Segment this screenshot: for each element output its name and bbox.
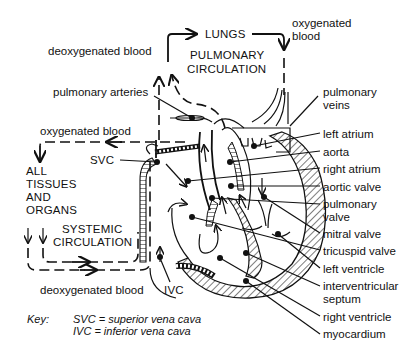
- deoxygenated-blood-top-label: deoxygenated blood: [48, 45, 152, 57]
- label-pulmonary-valve-2: valve: [323, 211, 350, 223]
- top-labels: LUNGS PULMONARY CIRCULATION deoxygenated…: [48, 17, 351, 98]
- label-myocardium: myocardium: [323, 328, 386, 340]
- tissues-label-4: ORGANS: [26, 204, 77, 216]
- heart-circulation-diagram: LUNGS PULMONARY CIRCULATION deoxygenated…: [0, 0, 419, 361]
- tissues-label-1: ALL: [26, 165, 47, 177]
- pulmonary-circulation-label-1: PULMONARY: [190, 49, 265, 61]
- label-aortic-valve: aortic valve: [323, 181, 381, 193]
- label-left-atrium: left atrium: [323, 128, 374, 140]
- key-svc-definition: SVC = superior vena cava: [73, 313, 201, 325]
- systemic-circulation-label-2: CIRCULATION: [53, 236, 132, 248]
- ivc-label: IVC: [164, 284, 184, 296]
- label-aorta: aorta: [323, 146, 350, 158]
- label-pulmonary-veins-1: pulmonary: [323, 86, 377, 98]
- oxygenated-blood-top-label-1: oxygenated: [292, 17, 351, 29]
- right-labels: pulmonary veins left atrium aorta right …: [323, 86, 399, 340]
- label-tricuspid-valve: tricuspid valve: [323, 245, 396, 257]
- key-ivc-definition: IVC = inferior vena cava: [73, 325, 191, 337]
- tissues-label-3: AND: [26, 191, 51, 203]
- label-pulmonary-veins-2: veins: [323, 99, 350, 111]
- label-left-ventricle: left ventricle: [323, 263, 384, 275]
- pulmonary-arteries-label: pulmonary arteries: [53, 86, 148, 98]
- label-interventricular-septum-1: interventricular: [323, 280, 399, 292]
- pulmonary-circulation-label-2: CIRCULATION: [187, 63, 266, 75]
- svc-label: SVC: [90, 154, 114, 166]
- oxygenated-blood-left-label: oxygenated blood: [40, 125, 131, 137]
- heart: [140, 119, 326, 298]
- oxygenated-blood-top-label-2: blood: [292, 30, 320, 42]
- systemic-circulation-label-1: SYSTEMIC: [62, 223, 122, 235]
- key: Key: SVC = superior vena cava IVC = infe…: [27, 313, 201, 337]
- label-right-atrium: right atrium: [323, 163, 381, 175]
- label-interventricular-septum-2: septum: [323, 293, 361, 305]
- label-pulmonary-valve-1: pulmonary: [323, 198, 377, 210]
- key-label: Key:: [27, 313, 49, 325]
- label-mitral-valve: mitral valve: [323, 228, 381, 240]
- lungs-label: LUNGS: [205, 28, 246, 40]
- deoxygenated-blood-bottom-label: deoxygenated blood: [40, 284, 144, 296]
- tissues-label-2: TISSUES: [26, 178, 77, 190]
- label-right-ventricle: right ventricle: [323, 311, 391, 323]
